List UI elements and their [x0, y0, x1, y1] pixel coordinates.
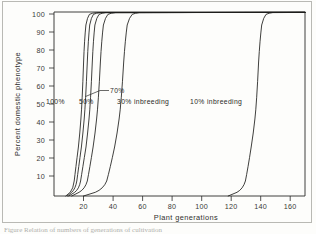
y-tick-label: 80 [36, 46, 45, 55]
x-tick-label: 100 [195, 202, 208, 211]
curve-label-100: 100% [46, 98, 65, 105]
x-tick-label: 140 [254, 202, 267, 211]
x-tick-label: 40 [109, 202, 118, 211]
chart-canvas: 100 90 80 70 60 50 40 30 20 10 20 40 60 [0, 0, 316, 234]
x-axis-title: Plant generations [154, 213, 218, 222]
y-tick-label: 30 [36, 136, 45, 145]
x-axis-ticks [84, 196, 291, 201]
y-tick-label: 40 [36, 118, 45, 127]
x-tick-label: 80 [168, 202, 177, 211]
y-axis-tick-labels: 100 90 80 70 60 50 40 30 20 10 [32, 10, 45, 181]
y-tick-label: 70 [36, 64, 45, 73]
curve-85 [67, 12, 305, 196]
curves-group [66, 12, 305, 196]
x-axis-tick-labels: 20 40 60 80 100 120 140 160 [79, 202, 296, 211]
x-tick-label: 160 [284, 202, 297, 211]
curve-70 [69, 12, 305, 196]
y-tick-label: 20 [36, 154, 45, 163]
y-tick-label: 60 [36, 82, 45, 91]
x-tick-label: 60 [138, 202, 147, 211]
y-tick-label: 50 [36, 100, 45, 109]
curve-label-70: 70% [110, 87, 125, 94]
figure-caption: Figure Relation of numbers of generation… [4, 226, 310, 234]
y-tick-label: 10 [36, 172, 45, 181]
figure-container: 100 90 80 70 60 50 40 30 20 10 20 40 60 [0, 0, 316, 234]
y-tick-label: 100 [32, 10, 45, 19]
curve-label-30: 30% inbreeding [117, 98, 169, 106]
y-axis-ticks [49, 14, 54, 176]
x-tick-label: 20 [79, 202, 88, 211]
y-tick-label: 90 [36, 28, 45, 37]
curve-50 [72, 12, 305, 196]
figure-caption-text: Figure Relation of numbers of generation… [4, 226, 310, 234]
curve-label-50: 50% [79, 98, 94, 105]
y-axis-title: Percent domestic phenotype [13, 52, 22, 156]
leader-line-70 [86, 91, 110, 97]
x-tick-label: 120 [225, 202, 238, 211]
curve-label-10: 10% inbreeding [190, 98, 242, 106]
